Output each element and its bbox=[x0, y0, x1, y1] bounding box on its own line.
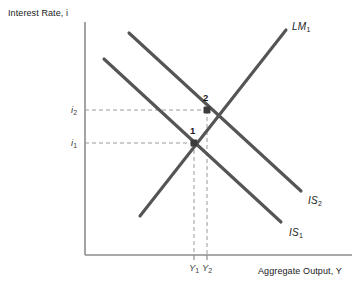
curve-label-is2-sub: 2 bbox=[318, 200, 322, 207]
x-tick-label-y2: Y2 bbox=[202, 263, 212, 273]
curve-label-lm1: LM1 bbox=[292, 22, 310, 32]
islm-diagram: Interest Rate, i Aggregate Output, Y i2 … bbox=[0, 0, 362, 305]
y-tick-label-i1: i1 bbox=[71, 138, 77, 148]
y-tick-sub-i2: 2 bbox=[73, 109, 77, 116]
x-axis-title: Aggregate Output, Y bbox=[258, 267, 342, 276]
curve-label-is2: IS2 bbox=[308, 196, 322, 206]
curve-label-is1-text: IS bbox=[289, 227, 299, 238]
axis-lines bbox=[85, 22, 352, 255]
curve-lm1 bbox=[140, 30, 286, 216]
plot-canvas bbox=[0, 0, 362, 305]
curve-label-is2-text: IS bbox=[308, 195, 318, 206]
curve-label-is1-sub: 1 bbox=[299, 232, 303, 239]
x-tick-label-y1: Y1 bbox=[189, 263, 199, 273]
curves bbox=[104, 30, 301, 222]
equilibrium-marker-1 bbox=[191, 140, 198, 147]
curve-label-lm1-sub: 1 bbox=[306, 26, 310, 33]
y-axis-title: Interest Rate, i bbox=[8, 9, 68, 18]
y-tick-label-i2: i2 bbox=[71, 105, 77, 115]
y-tick-sub-i1: 1 bbox=[73, 142, 77, 149]
x-tick-sub-y1: 1 bbox=[195, 267, 199, 274]
x-tick-sub-y2: 2 bbox=[208, 267, 212, 274]
equilibrium-label-2: 2 bbox=[203, 93, 208, 103]
curve-is2 bbox=[129, 33, 301, 191]
guide-lines bbox=[85, 110, 207, 255]
equilibrium-marker-2 bbox=[204, 107, 211, 114]
equilibrium-label-1: 1 bbox=[190, 126, 195, 136]
curve-label-is1: IS1 bbox=[289, 228, 303, 238]
curve-label-lm1-text: LM bbox=[292, 21, 306, 32]
